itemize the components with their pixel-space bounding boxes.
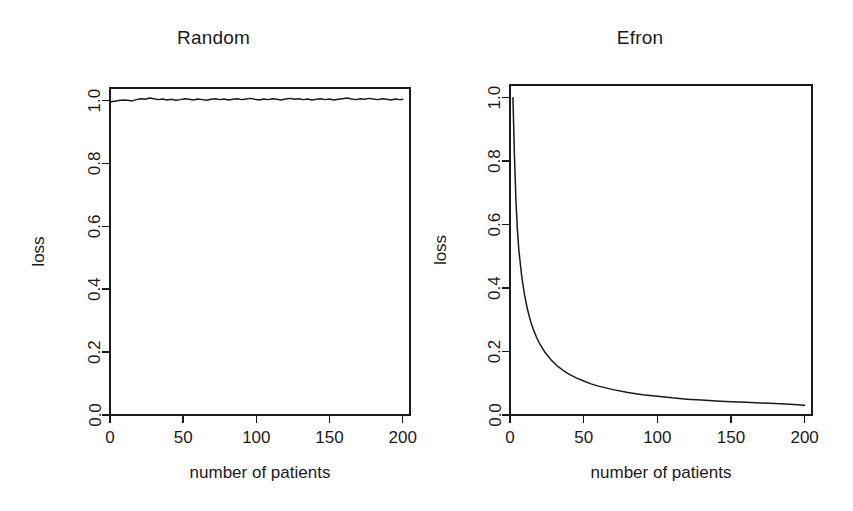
x-axis-title: number of patients [591,463,732,482]
x-tick-label: 200 [388,428,416,447]
x-tick-label: 50 [574,428,593,447]
panel-efron: Efron 0.00.20.40.60.81.0loss050100150200… [427,0,853,511]
plot-frame [510,85,812,415]
plot-frame [110,88,410,415]
x-tick-label: 200 [790,428,818,447]
y-tick-label: 0.4 [486,276,505,300]
y-tick-label: 1.0 [486,86,505,110]
x-tick-label: 0 [105,428,114,447]
data-series-line [513,98,805,405]
y-tick-label: 0.0 [86,403,105,427]
x-tick-label: 150 [717,428,745,447]
y-axis-title: loss [29,236,48,266]
y-tick-label: 0.8 [486,149,505,173]
data-series-line [111,98,402,102]
y-tick-label: 0.6 [486,213,505,237]
y-tick-label: 0.0 [486,403,505,427]
y-tick-label: 0.2 [86,340,105,364]
y-tick-label: 1.0 [86,89,105,113]
panel-efron-plot: 0.00.20.40.60.81.0loss050100150200number… [427,0,853,511]
panel-random-plot: 0.00.20.40.60.81.0loss050100150200number… [0,0,427,511]
x-tick-label: 100 [643,428,671,447]
x-axis-title: number of patients [190,463,331,482]
y-tick-label: 0.6 [86,215,105,239]
x-tick-label: 100 [242,428,270,447]
y-axis-title: loss [431,235,450,265]
y-tick-label: 0.8 [86,152,105,176]
x-tick-label: 0 [505,428,514,447]
y-tick-label: 0.2 [486,340,505,364]
panel-random: Random 0.00.20.40.60.81.0loss05010015020… [0,0,427,511]
figure-two-panel-loss-plots: Random 0.00.20.40.60.81.0loss05010015020… [0,0,853,511]
x-tick-label: 150 [315,428,343,447]
y-tick-label: 0.4 [86,277,105,301]
x-tick-label: 50 [174,428,193,447]
